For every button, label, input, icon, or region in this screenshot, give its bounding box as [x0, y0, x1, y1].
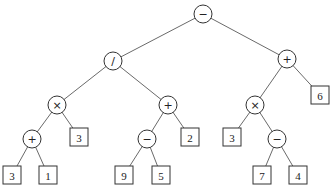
operator-label: − — [198, 8, 207, 21]
operand-node: 1 — [39, 166, 57, 184]
operand-label: 4 — [295, 170, 301, 182]
operator-node: + — [278, 50, 296, 68]
operand-node: 7 — [253, 166, 271, 184]
operand-node: 6 — [311, 86, 329, 104]
operator-node: − — [138, 130, 156, 148]
operator-node: + — [23, 130, 41, 148]
operand-node: 3 — [70, 128, 88, 146]
operand-label: 3 — [76, 132, 82, 144]
operator-node: × — [246, 96, 264, 114]
operand-label: 5 — [158, 170, 164, 182]
operand-node: 2 — [181, 128, 199, 146]
operator-label: − — [142, 133, 151, 146]
operator-node: + — [159, 96, 177, 114]
operand-label: 6 — [317, 90, 323, 102]
operand-node: 9 — [115, 166, 133, 184]
operator-node: − — [268, 130, 286, 148]
operator-label: − — [272, 133, 281, 146]
operator-label: + — [282, 53, 291, 66]
operand-label: 1 — [45, 170, 51, 182]
operand-node: 3 — [223, 128, 241, 146]
operand-node: 5 — [152, 166, 170, 184]
tree-edge — [203, 14, 287, 59]
tree-edge — [57, 61, 113, 105]
operator-label: + — [27, 133, 36, 146]
operand-label: 9 — [121, 170, 127, 182]
expression-tree: −/+×+×6+3−23−319574 — [0, 0, 332, 186]
operator-node: × — [48, 96, 66, 114]
operand-label: 2 — [187, 132, 193, 144]
operand-label: 7 — [259, 170, 265, 182]
operator-label: / — [111, 55, 115, 68]
operator-label: × — [52, 99, 61, 112]
tree-edges — [12, 14, 320, 175]
tree-nodes: −/+×+×6+3−23−319574 — [3, 5, 329, 184]
operand-label: 3 — [9, 170, 15, 182]
operand-node: 4 — [289, 166, 307, 184]
tree-edge — [113, 14, 203, 61]
operator-label: + — [163, 99, 172, 112]
operator-node: − — [194, 5, 212, 23]
operand-label: 3 — [229, 132, 235, 144]
operator-node: / — [104, 52, 122, 70]
operand-node: 3 — [3, 166, 21, 184]
tree-edge — [113, 61, 168, 105]
operator-label: × — [250, 99, 259, 112]
